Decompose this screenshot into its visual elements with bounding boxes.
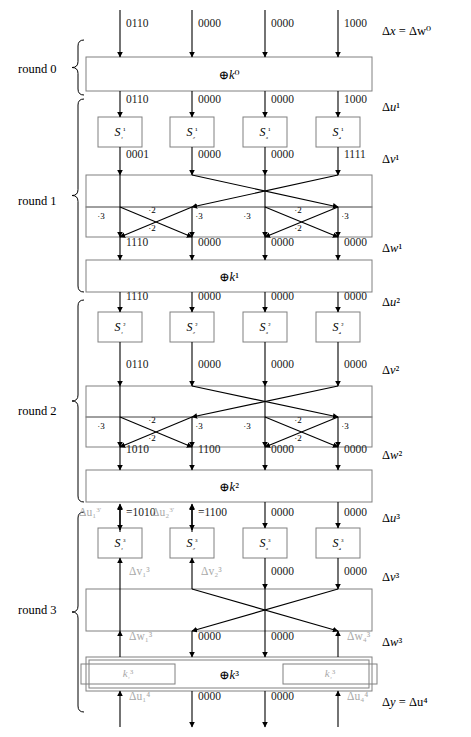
mix-layer-round-1-mult-3-col3: ·3	[243, 212, 251, 221]
unknown-delta-u1-4: Δu₁⁴	[129, 691, 150, 703]
mix-layer-round-1-mul-box	[86, 207, 372, 237]
unknown-delta-w4-3: Δw₄³	[347, 631, 370, 643]
sbox-row-3-label-1: S₁³	[115, 537, 126, 550]
bits-delta-v1-col2: 0000	[198, 149, 221, 161]
bits-delta-w1-col2: 0000	[198, 237, 221, 249]
delta-w1: Δw¹	[382, 242, 402, 255]
delta-v3: Δv³	[382, 571, 399, 584]
delta-u2: Δu²	[382, 296, 400, 309]
bits-delta-v1-col4: 1111	[344, 149, 366, 161]
sbox-row-3-label-4: S₄³	[333, 537, 344, 550]
mix-layer-round-2-shuffle-box	[86, 386, 372, 417]
mix-layer-round-2-mult-3-col3: ·3	[243, 422, 251, 431]
bits-delta-w2-col4: 0000	[344, 444, 367, 456]
mix-layer-round-1-mult-3-col1: ·3	[97, 212, 105, 221]
bits-delta-v1-col1: 0001	[126, 149, 149, 161]
mix-layer-round-1-mult-2-lower-left: ·2	[148, 224, 156, 233]
bits-delta-u1-col4: 1000	[344, 94, 367, 106]
bits-delta-u2-col3: 0000	[271, 291, 294, 303]
bits-delta-w1-col1: 1110	[126, 237, 148, 249]
bits-delta-u3-col3: 0000	[271, 507, 294, 519]
bits-delta-u3-col4: 0000	[344, 507, 367, 519]
mix-layer-round-2-mult-3-col4: ·3	[341, 422, 349, 431]
bits-delta-x-col3: 0000	[271, 18, 294, 30]
bits-delta-x-col4: 1000	[344, 18, 367, 30]
brace-round-3	[72, 512, 84, 712]
bits-delta-u1-col1: 0110	[126, 94, 149, 106]
bits-delta-u4-col3: 0000	[271, 691, 294, 703]
mix-layer-round-2-mult-2-upper-left: ·2	[148, 416, 156, 425]
delta-u1: Δu¹	[382, 101, 400, 114]
mix-layer-round-1-shuffle-box	[86, 175, 372, 207]
generated-line-layer	[72, 10, 377, 727]
key-subbox-k4-3-label: k₄³	[325, 668, 336, 680]
bits-delta-x-col1: 0110	[126, 18, 149, 30]
mix-layer-round-1-mult-3-col4: ·3	[341, 212, 349, 221]
brace-round-2	[72, 300, 84, 502]
delta-u3: Δu³	[382, 512, 400, 525]
xor-k2-label: ⊕k²	[219, 481, 239, 494]
sbox-row-3-label-3: S₃³	[260, 537, 271, 550]
bits-delta-w2-col1: 1010	[126, 444, 149, 456]
mix-layer-round-2-mult-3-col2: ·3	[195, 422, 203, 431]
mix-layer-round-3-box	[86, 589, 372, 631]
mix-layer-round-1-mult-2-lower-right: ·2	[294, 224, 302, 233]
unknown-delta-w1-3: Δw₁³	[129, 631, 152, 643]
xor-k3-label: ⊕k³	[219, 669, 239, 682]
sbox-row-3-label-2: S₂³	[187, 537, 198, 550]
sbox-row-2-label-2: S₂²	[187, 321, 198, 334]
bits-delta-u3-col2: =1100	[198, 507, 227, 519]
sbox-row-2-label-4: S₄²	[333, 321, 344, 334]
xor-k0-label: ⊕k⁰	[218, 69, 239, 82]
bits-delta-w3-col3: 0000	[271, 631, 294, 643]
delta-y-u4: Δy = Δu⁴	[382, 696, 428, 709]
round-label-1: round 1	[18, 195, 57, 208]
mix-layer-round-1-mult-3-col2: ·3	[195, 212, 203, 221]
bits-delta-v2-col4: 0000	[344, 359, 367, 371]
bits-delta-w1-col4: 0000	[344, 237, 367, 249]
delta-x-w0: Δx = Δw⁰	[382, 25, 431, 38]
mix-layer-round-2-mult-3-col1: ·3	[97, 422, 105, 431]
mix-layer-round-2-mult-2-lower-left: ·2	[148, 434, 156, 443]
sbox-row-1-label-4: S₄¹	[333, 126, 344, 139]
delta-w3: Δw³	[382, 636, 402, 649]
sbox-row-1-label-2: S₂¹	[187, 126, 198, 139]
delta-v2: Δv²	[382, 364, 399, 377]
bits-delta-w2-col2: 1100	[198, 444, 221, 456]
diagram-vector-layer	[0, 0, 471, 737]
key-subbox-k1-3-label: k₁³	[123, 668, 134, 680]
unknown-delta-v1-3: Δv₁³	[129, 566, 150, 578]
round-label-0: round 0	[18, 63, 57, 76]
bits-delta-v1-col3: 0000	[271, 149, 294, 161]
bits-delta-u2-col2: 0000	[198, 291, 221, 303]
round-label-2: round 2	[18, 405, 57, 418]
mix-layer-round-1-mult-2-upper-right: ·2	[294, 206, 302, 215]
bits-delta-u4-col2: 0000	[198, 691, 221, 703]
bits-delta-v2-col1: 0110	[126, 359, 149, 371]
mix-layer-round-2-mult-2-upper-right: ·2	[294, 416, 302, 425]
unknown-delta-v2-3: Δv₂³	[201, 566, 222, 578]
round-label-3: round 3	[18, 604, 57, 617]
unknown-delta-u4-4: Δu₄⁴	[347, 691, 368, 703]
brace-round-1	[72, 99, 84, 292]
sbox-row-2-label-1: S₁²	[115, 321, 126, 334]
bits-delta-w3-col2: 0000	[198, 631, 221, 643]
mix-layer-round-1-mult-2-upper-left: ·2	[148, 206, 156, 215]
bits-delta-u1-col3: 0000	[271, 94, 294, 106]
bits-delta-u2-col4: 0000	[344, 291, 367, 303]
delta-w2: Δw²	[382, 449, 402, 462]
diagram-canvas: round 0 round 1 round 2 round 3 ⊕k⁰⊕k¹⊕k…	[0, 0, 471, 737]
brace-round-0	[72, 40, 84, 95]
unknown-delta-u2-3prime: Δu₂3′	[152, 507, 174, 519]
unknown-delta-u1-3prime: Δu₁3′	[79, 507, 101, 519]
sbox-row-2-label-3: S₃²	[260, 321, 271, 334]
bits-delta-u1-col2: 0000	[198, 94, 221, 106]
bits-delta-w1-col3: 0000	[271, 237, 294, 249]
delta-v1: Δv¹	[382, 153, 399, 166]
xor-k1-label: ⊕k¹	[219, 271, 239, 284]
bits-delta-v3-col3: 0000	[271, 566, 294, 578]
bits-delta-u2-col1: 1110	[126, 291, 148, 303]
bits-delta-x-col2: 0000	[198, 18, 221, 30]
mix-layer-round-2-mult-2-lower-right: ·2	[294, 434, 302, 443]
bits-delta-v3-col4: 0000	[344, 566, 367, 578]
